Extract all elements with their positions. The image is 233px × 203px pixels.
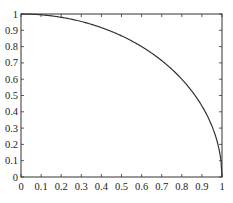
- x-tick-label: 0.3: [75, 181, 88, 192]
- data-line: [21, 14, 222, 177]
- plot-frame: [21, 14, 222, 177]
- x-tick-label: 0.2: [55, 181, 68, 192]
- x-tick-label: 0.1: [35, 181, 48, 192]
- x-tick-label: 0.6: [135, 181, 148, 192]
- y-tick-label: 0.6: [5, 74, 18, 85]
- y-tick-label: 0.8: [5, 41, 18, 52]
- x-tick-label: 0.5: [115, 181, 128, 192]
- y-tick-label: 0.3: [5, 123, 18, 134]
- y-tick-label: 0.9: [5, 25, 18, 36]
- y-axis-ticks: [21, 14, 222, 177]
- x-tick-label: 0: [18, 181, 23, 192]
- x-tick-label: 0.9: [195, 181, 208, 192]
- y-tick-label: 0.2: [5, 139, 18, 150]
- y-tick-label: 0.1: [5, 155, 18, 166]
- x-tick-label: 0.4: [95, 181, 109, 192]
- x-axis-ticks: [21, 14, 222, 177]
- x-tick-label: 0.7: [155, 181, 168, 192]
- chart: 00.10.20.30.40.50.60.70.80.91 00.10.20.3…: [0, 0, 233, 203]
- x-tick-label: 0.8: [175, 181, 188, 192]
- y-axis-labels: 00.10.20.30.40.50.60.70.80.91: [5, 9, 19, 183]
- y-tick-label: 0.5: [5, 90, 18, 101]
- y-tick-label: 0: [13, 172, 18, 183]
- y-tick-label: 1: [13, 9, 18, 20]
- x-tick-label: 1: [219, 181, 224, 192]
- x-axis-labels: 00.10.20.30.40.50.60.70.80.91: [18, 181, 224, 192]
- y-tick-label: 0.4: [5, 106, 19, 117]
- y-tick-label: 0.7: [5, 57, 18, 68]
